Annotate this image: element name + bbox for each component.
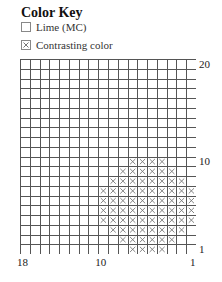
row-number-label: 20 xyxy=(199,58,210,70)
contrast-stitch-x-icon xyxy=(150,227,155,232)
contrast-stitch-x-icon xyxy=(111,208,116,213)
contrast-stitch-x-icon xyxy=(130,227,135,232)
contrast-stitch-x-icon xyxy=(159,159,164,164)
contrast-stitch-x-icon xyxy=(101,208,106,213)
contrast-stitch-x-icon xyxy=(179,227,184,232)
contrast-stitch-x-icon xyxy=(159,169,164,174)
contrast-stitch-x-icon xyxy=(140,159,145,164)
contrast-stitch-x-icon xyxy=(169,198,174,203)
contrast-stitch-x-icon xyxy=(130,198,135,203)
contrast-stitch-x-icon xyxy=(130,188,135,193)
contrast-stitch-x-icon xyxy=(111,188,116,193)
contrast-stitch-x-icon xyxy=(169,169,174,174)
key-item-main-color: Lime (MC) xyxy=(21,20,86,34)
contrast-stitch-x-icon xyxy=(140,169,145,174)
contrast-stitch-x-icon xyxy=(101,198,106,203)
contrast-stitch-x-icon xyxy=(130,179,135,184)
contrast-stitch-x-icon xyxy=(159,218,164,223)
contrast-stitch-x-icon xyxy=(120,169,125,174)
contrast-stitch-x-icon xyxy=(140,188,145,193)
contrast-stitch-x-icon xyxy=(150,208,155,213)
contrast-stitch-x-icon xyxy=(140,227,145,232)
contrast-stitch-x-icon xyxy=(159,188,164,193)
contrast-stitch-x-icon xyxy=(130,237,135,242)
contrast-stitch-x-icon xyxy=(150,159,155,164)
column-number-label: 10 xyxy=(95,256,106,268)
contrast-stitch-x-icon xyxy=(179,179,184,184)
contrast-stitch-x-icon xyxy=(140,218,145,223)
contrast-stitch-x-icon xyxy=(120,227,125,232)
contrast-stitch-x-icon xyxy=(150,247,155,252)
knitting-chart-grid xyxy=(20,59,196,254)
key-item-label: Lime (MC) xyxy=(36,21,86,33)
key-item-contrasting-color: Contrasting color xyxy=(21,38,113,52)
contrast-stitch-x-icon xyxy=(130,208,135,213)
contrast-stitch-x-icon xyxy=(120,208,125,213)
contrast-stitch-x-icon xyxy=(169,188,174,193)
contrast-stitch-x-icon xyxy=(140,179,145,184)
contrast-stitch-x-icon xyxy=(120,218,125,223)
contrast-stitch-x-icon xyxy=(130,169,135,174)
contrast-stitch-x-icon xyxy=(130,159,135,164)
contrast-stitch-x-icon xyxy=(140,208,145,213)
contrast-stitch-x-icon xyxy=(189,188,194,193)
contrast-stitch-x-icon xyxy=(150,188,155,193)
x-square-icon xyxy=(21,40,31,50)
column-number-label: 1 xyxy=(190,256,196,268)
contrast-stitch-x-icon xyxy=(150,169,155,174)
contrast-stitch-x-icon xyxy=(150,237,155,242)
contrast-stitch-x-icon xyxy=(169,208,174,213)
column-number-label: 18 xyxy=(17,256,28,268)
contrast-stitch-x-icon xyxy=(130,218,135,223)
contrast-stitch-x-icon xyxy=(169,179,174,184)
contrast-stitch-x-icon xyxy=(120,179,125,184)
contrast-stitch-x-icon xyxy=(169,218,174,223)
contrast-stitch-x-icon xyxy=(140,198,145,203)
contrast-stitch-x-icon xyxy=(189,218,194,223)
contrast-stitch-x-icon xyxy=(150,218,155,223)
contrast-stitch-x-icon xyxy=(111,179,116,184)
contrast-stitch-x-icon xyxy=(159,247,164,252)
contrast-stitch-x-icon xyxy=(120,237,125,242)
contrast-stitch-x-icon xyxy=(111,198,116,203)
contrast-stitch-x-icon xyxy=(159,227,164,232)
contrast-stitch-x-icon xyxy=(159,237,164,242)
contrast-stitch-x-icon xyxy=(169,227,174,232)
contrast-stitch-x-icon xyxy=(111,218,116,223)
key-title: Color Key xyxy=(21,5,83,21)
contrast-stitch-x-icon xyxy=(159,179,164,184)
contrast-stitch-x-icon xyxy=(159,198,164,203)
contrast-stitch-x-icon xyxy=(150,198,155,203)
contrast-stitch-x-icon xyxy=(189,198,194,203)
contrast-stitch-x-icon xyxy=(101,218,106,223)
contrast-stitch-x-icon xyxy=(169,237,174,242)
key-item-label: Contrasting color xyxy=(36,39,113,51)
contrast-stitch-x-icon xyxy=(130,247,135,252)
contrast-stitch-x-icon xyxy=(140,237,145,242)
contrast-stitch-x-icon xyxy=(159,208,164,213)
contrast-stitch-x-icon xyxy=(179,208,184,213)
contrast-stitch-x-icon xyxy=(179,218,184,223)
contrast-stitch-x-icon xyxy=(179,198,184,203)
row-number-label: 1 xyxy=(199,243,205,255)
contrast-stitch-x-icon xyxy=(140,247,145,252)
blank-square-icon xyxy=(21,22,31,32)
row-number-label: 10 xyxy=(199,155,210,167)
contrast-stitch-x-icon xyxy=(120,198,125,203)
contrast-stitch-x-icon xyxy=(101,188,106,193)
contrast-stitch-x-icon xyxy=(189,208,194,213)
contrast-stitch-x-icon xyxy=(120,188,125,193)
contrast-stitch-x-icon xyxy=(179,188,184,193)
contrast-stitch-x-icon xyxy=(111,227,116,232)
contrast-stitch-x-icon xyxy=(150,179,155,184)
